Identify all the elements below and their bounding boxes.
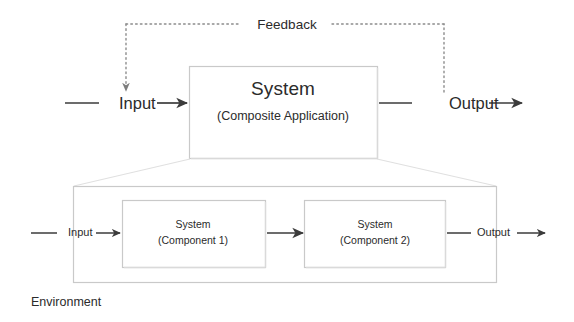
expansion-line-left (74, 159, 190, 186)
composite-system-subtitle: (Composite Application) (217, 109, 349, 123)
top-output-label: Output (449, 94, 499, 113)
component-1-subtitle: (Component 1) (158, 234, 228, 246)
component-2-title: System (357, 218, 392, 230)
feedback-label: Feedback (253, 17, 320, 33)
environment-input-label: Input (68, 226, 92, 239)
diagram-canvas (0, 0, 574, 322)
systems-diagram: Feedback Input Output System (Composite … (0, 0, 574, 322)
component-1-title: System (175, 218, 210, 230)
component-2-subtitle: (Component 2) (340, 234, 410, 246)
environment-caption: Environment (31, 295, 101, 309)
top-input-label: Input (119, 94, 156, 113)
environment-output-label: Output (477, 226, 510, 239)
expansion-line-right (377, 159, 496, 186)
composite-system-title: System (251, 78, 315, 100)
